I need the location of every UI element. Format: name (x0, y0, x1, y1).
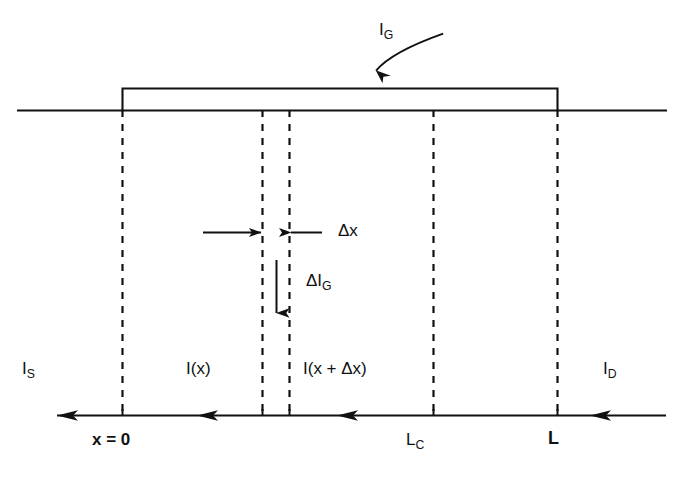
channel-length-label: L (548, 429, 559, 447)
diagram-canvas: IG Δx ΔIG IS I(x) I(x + Δx) ID x = 0 LC … (0, 0, 685, 487)
gate-current-label: IG (379, 21, 393, 42)
current-at-x-plus-delta-x-label: I(x + Δx) (303, 360, 367, 377)
origin-label: x = 0 (92, 431, 130, 448)
drain-current-label: ID (603, 360, 617, 381)
channel-length-c-label: LC (406, 431, 424, 452)
source-current-label: IS (22, 360, 35, 381)
delta-x-label: Δx (338, 222, 358, 239)
delta-gate-current-label: ΔIG (306, 272, 332, 293)
diagram-vector-layer (0, 0, 685, 487)
current-at-x-label: I(x) (186, 360, 211, 377)
gate-electrode-rect (123, 89, 558, 111)
